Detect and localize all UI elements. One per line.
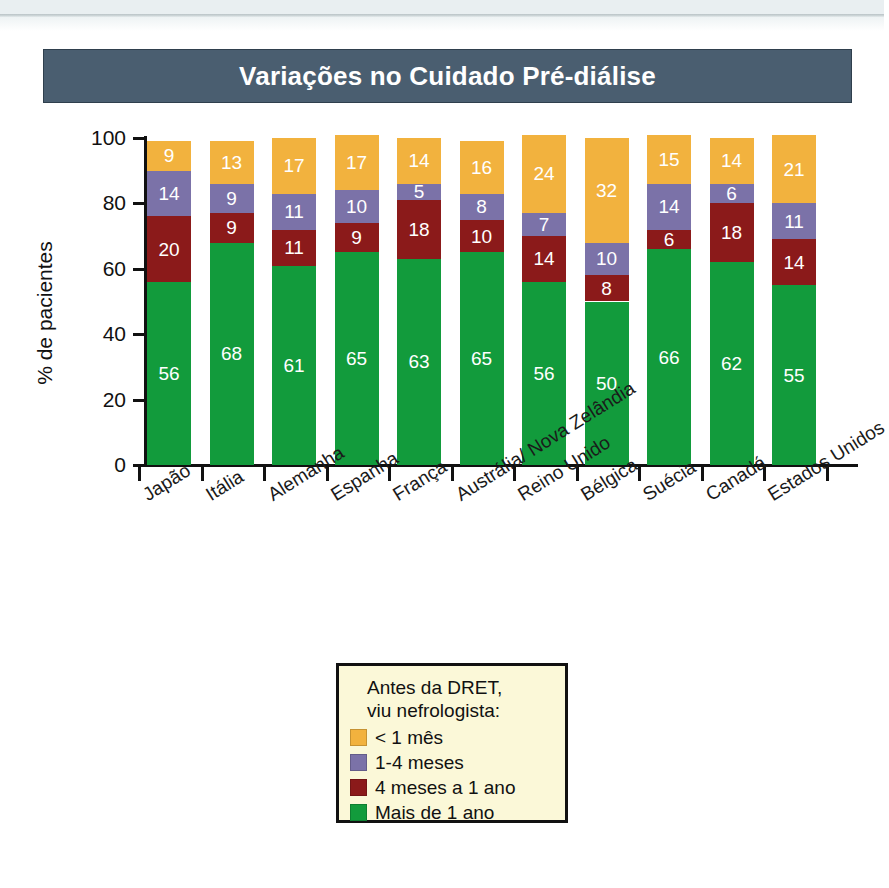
bar-segment[interactable]: 6 [710, 184, 754, 204]
bar-segment[interactable]: 56 [147, 282, 191, 465]
chart-legend: Antes da DRET, viu nefrologista: < 1 mês… [336, 663, 568, 823]
bar-segment-value: 65 [471, 349, 492, 368]
bar-segment[interactable]: 18 [397, 200, 441, 259]
bar-segment[interactable]: 14 [397, 138, 441, 184]
x-tick [201, 467, 204, 481]
bar-segment[interactable]: 66 [647, 249, 691, 465]
legend-item-label: 1-4 meses [375, 753, 464, 772]
legend-swatch [350, 754, 367, 771]
bar-segment-value: 14 [158, 184, 179, 203]
y-tick-label: 100 [66, 127, 126, 148]
legend-title-line-1: Antes da DRET, [367, 676, 565, 699]
bar-reino-unido[interactable]: 5614724 [522, 138, 566, 465]
bar-segment-value: 20 [158, 240, 179, 259]
y-tick-40 [133, 333, 145, 336]
y-tick-label: 40 [66, 323, 126, 344]
bar-segment[interactable]: 21 [772, 135, 816, 204]
bar-segment-value: 68 [221, 344, 242, 363]
bar-segment-value: 14 [408, 151, 429, 170]
bar-jap-o[interactable]: 5620149 [147, 138, 191, 465]
bar-segment-value: 9 [164, 146, 175, 165]
bar-segment[interactable]: 14 [522, 236, 566, 282]
bar-su-cia[interactable]: 6661415 [647, 138, 691, 465]
bar-espanha[interactable]: 6591017 [335, 138, 379, 465]
bar-segment[interactable]: 14 [710, 138, 754, 184]
x-tick [138, 467, 141, 481]
bar-segment[interactable]: 65 [335, 252, 379, 465]
bar-segment-value: 11 [284, 238, 304, 257]
bar-segment-value: 9 [351, 228, 362, 247]
bar-segment-value: 16 [471, 158, 492, 177]
bar-segment-value: 63 [408, 352, 429, 371]
bar-segment-value: 15 [658, 150, 679, 169]
bar-segment[interactable]: 14 [772, 239, 816, 285]
y-tick-label: 0 [66, 454, 126, 475]
bar-segment[interactable]: 5 [397, 184, 441, 200]
bar-alemanha[interactable]: 61111117 [272, 138, 316, 465]
bar-segment-value: 21 [783, 160, 804, 179]
legend-swatch [350, 729, 367, 746]
bar-segment-value: 61 [283, 356, 304, 375]
legend-title-line-2: viu nefrologista: [367, 699, 565, 722]
bar-fran-a[interactable]: 6318514 [397, 138, 441, 465]
bar-segment[interactable]: 63 [397, 259, 441, 465]
bar-segment-value: 14 [533, 249, 554, 268]
legend-swatch [350, 779, 367, 796]
bar-segment[interactable]: 8 [585, 275, 629, 301]
bar-segment[interactable]: 11 [272, 230, 316, 266]
bar-segment[interactable]: 55 [772, 285, 816, 465]
bar-segment[interactable]: 9 [210, 213, 254, 242]
bar-segment[interactable]: 14 [147, 171, 191, 217]
bar-segment-value: 6 [664, 230, 675, 249]
x-tick [701, 467, 704, 481]
bar-segment[interactable]: 32 [585, 138, 629, 243]
legend-item[interactable]: 4 meses a 1 ano [339, 776, 565, 799]
bar-estados-unidos[interactable]: 55141121 [772, 138, 816, 465]
bar-segment[interactable]: 20 [147, 216, 191, 281]
bar-segment-value: 66 [658, 348, 679, 367]
y-tick-label-wrap: 40 [60, 334, 126, 335]
y-tick-label-wrap: 20 [60, 400, 126, 401]
bar-segment[interactable]: 17 [335, 135, 379, 191]
bar-segment[interactable]: 68 [210, 243, 254, 465]
bar-segment-value: 8 [476, 197, 487, 216]
bar-segment[interactable]: 62 [710, 262, 754, 465]
bar-segment[interactable]: 13 [210, 141, 254, 184]
bar-segment-value: 11 [284, 202, 304, 221]
bar-segment[interactable]: 14 [647, 184, 691, 230]
bar-segment[interactable]: 9 [335, 223, 379, 252]
bar-segment[interactable]: 18 [710, 203, 754, 262]
y-tick-label: 80 [66, 192, 126, 213]
bar-segment[interactable]: 10 [335, 190, 379, 223]
x-axis-label-it-lia: Itália [202, 466, 248, 506]
bar-segment[interactable]: 10 [585, 243, 629, 276]
bar-segment[interactable]: 9 [210, 184, 254, 213]
bar-segment[interactable]: 65 [460, 252, 504, 465]
bar-segment-value: 56 [533, 364, 554, 383]
bar-segment[interactable]: 15 [647, 135, 691, 184]
bar-segment[interactable]: 11 [272, 194, 316, 230]
bar-segment-value: 14 [658, 197, 679, 216]
bar-it-lia[interactable]: 689913 [210, 138, 254, 465]
bar-segment-value: 10 [471, 227, 492, 246]
bar-segment[interactable]: 9 [147, 141, 191, 170]
legend-item[interactable]: 1-4 meses [339, 751, 565, 774]
y-tick-20 [133, 399, 145, 402]
bar-segment-value: 6 [726, 184, 737, 203]
bar-segment[interactable]: 8 [460, 194, 504, 220]
bar-segment-value: 10 [596, 249, 617, 268]
bar-canad[interactable]: 6218614 [710, 138, 754, 465]
bar-segment[interactable]: 10 [460, 220, 504, 253]
legend-item[interactable]: Mais de 1 ano [339, 801, 565, 824]
bar-austr-lia-nova-zel-ndia[interactable]: 6510816 [460, 138, 504, 465]
bar-segment[interactable]: 11 [772, 203, 816, 239]
bar-segment[interactable]: 61 [272, 266, 316, 465]
bar-segment[interactable]: 6 [647, 230, 691, 250]
y-tick-label: 20 [66, 389, 126, 410]
bar-segment[interactable]: 17 [272, 138, 316, 194]
bar-segment[interactable]: 24 [522, 135, 566, 213]
bar-segment[interactable]: 7 [522, 213, 566, 236]
y-tick-label-wrap: 60 [60, 269, 126, 270]
bar-segment[interactable]: 16 [460, 141, 504, 193]
legend-item[interactable]: < 1 mês [339, 726, 565, 749]
